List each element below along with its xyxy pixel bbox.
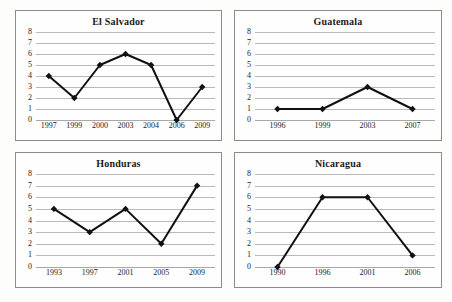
y-tick-label: 1 bbox=[28, 251, 32, 259]
x-tick-label: 1996 bbox=[315, 269, 331, 277]
series-line bbox=[278, 87, 413, 109]
x-tick-label: 2001 bbox=[360, 269, 376, 277]
plot-area-nicaragua bbox=[255, 174, 435, 267]
data-point-marker bbox=[364, 84, 370, 90]
y-tick-label: 2 bbox=[28, 240, 32, 248]
y-axis-labels-el-salvador: 876543210 bbox=[16, 32, 34, 120]
y-tick-label: 7 bbox=[247, 39, 251, 47]
x-tick-label: 1999 bbox=[66, 122, 82, 130]
plot-area-guatemala bbox=[255, 32, 435, 120]
x-tick-label: 1990 bbox=[270, 269, 286, 277]
y-tick-label: 2 bbox=[28, 94, 32, 102]
plot-area-el-salvador bbox=[36, 32, 215, 120]
y-tick-label: 3 bbox=[247, 228, 251, 236]
y-tick-label: 6 bbox=[28, 50, 32, 58]
y-tick-label: 4 bbox=[28, 72, 32, 80]
x-tick-label: 1999 bbox=[315, 122, 331, 130]
chart-panel-nicaragua: Nicaragua 876543210 1990199620012006 bbox=[234, 152, 442, 288]
line-series-honduras bbox=[36, 174, 215, 267]
y-tick-label: 2 bbox=[247, 240, 251, 248]
x-tick-label: 2006 bbox=[405, 269, 421, 277]
line-series-guatemala bbox=[255, 32, 435, 120]
y-tick-label: 0 bbox=[28, 263, 32, 271]
y-tick-label: 6 bbox=[247, 50, 251, 58]
line-series-el-salvador bbox=[36, 32, 215, 120]
y-tick-label: 6 bbox=[28, 193, 32, 201]
y-tick-label: 7 bbox=[28, 182, 32, 190]
y-tick-label: 2 bbox=[247, 94, 251, 102]
x-tick-label: 2006 bbox=[169, 122, 185, 130]
y-tick-label: 1 bbox=[28, 105, 32, 113]
x-tick-label: 1997 bbox=[82, 269, 98, 277]
y-tick-label: 5 bbox=[28, 205, 32, 213]
x-tick-label: 2009 bbox=[189, 269, 205, 277]
x-tick-label: 2003 bbox=[118, 122, 134, 130]
chart-panel-guatemala: Guatemala 876543210 1996199920032007 bbox=[234, 10, 442, 141]
chart-title-nicaragua: Nicaragua bbox=[235, 158, 441, 169]
y-tick-label: 7 bbox=[28, 39, 32, 47]
x-axis-labels-guatemala: 1996199920032007 bbox=[255, 122, 435, 136]
y-tick-label: 5 bbox=[247, 205, 251, 213]
y-tick-label: 0 bbox=[247, 263, 251, 271]
y-tick-label: 4 bbox=[247, 72, 251, 80]
data-point-marker bbox=[148, 62, 154, 68]
data-point-marker bbox=[319, 106, 325, 112]
series-line bbox=[278, 197, 413, 267]
y-tick-label: 3 bbox=[28, 228, 32, 236]
chart-panel-el-salvador: El Salvador 876543210 199719992000200320… bbox=[15, 10, 222, 141]
y-tick-label: 7 bbox=[247, 182, 251, 190]
x-axis-labels-el-salvador: 1997199920002003200420062009 bbox=[36, 122, 215, 136]
x-tick-label: 1997 bbox=[41, 122, 57, 130]
series-line bbox=[54, 186, 197, 244]
y-tick-label: 6 bbox=[247, 193, 251, 201]
y-axis-labels-honduras: 876543210 bbox=[16, 174, 34, 267]
y-tick-label: 0 bbox=[28, 116, 32, 124]
plot-area-honduras bbox=[36, 174, 215, 267]
x-tick-label: 1996 bbox=[270, 122, 286, 130]
y-tick-label: 3 bbox=[28, 83, 32, 91]
data-point-marker bbox=[409, 106, 415, 112]
chart-panel-honduras: Honduras 876543210 19931997200120052009 bbox=[15, 152, 222, 288]
y-tick-label: 8 bbox=[28, 170, 32, 178]
y-axis-labels-nicaragua: 876543210 bbox=[235, 174, 253, 267]
x-axis-labels-honduras: 19931997200120052009 bbox=[36, 269, 215, 283]
chart-title-el-salvador: El Salvador bbox=[16, 16, 221, 27]
y-tick-label: 8 bbox=[247, 28, 251, 36]
x-tick-label: 2003 bbox=[360, 122, 376, 130]
x-tick-label: 2005 bbox=[153, 269, 169, 277]
y-tick-label: 1 bbox=[247, 105, 251, 113]
y-tick-label: 8 bbox=[28, 28, 32, 36]
data-point-marker bbox=[274, 106, 280, 112]
y-axis-labels-guatemala: 876543210 bbox=[235, 32, 253, 120]
y-tick-label: 0 bbox=[247, 116, 251, 124]
chart-grid: El Salvador 876543210 199719992000200320… bbox=[0, 0, 452, 302]
x-tick-label: 2001 bbox=[118, 269, 134, 277]
y-tick-label: 8 bbox=[247, 170, 251, 178]
chart-title-honduras: Honduras bbox=[16, 158, 221, 169]
chart-title-guatemala: Guatemala bbox=[235, 16, 441, 27]
line-series-nicaragua bbox=[255, 174, 435, 267]
y-tick-label: 1 bbox=[247, 251, 251, 259]
y-tick-label: 5 bbox=[28, 61, 32, 69]
y-tick-label: 4 bbox=[247, 217, 251, 225]
x-tick-label: 2004 bbox=[143, 122, 159, 130]
x-tick-label: 2007 bbox=[405, 122, 421, 130]
x-tick-label: 1993 bbox=[46, 269, 62, 277]
y-tick-label: 5 bbox=[247, 61, 251, 69]
y-tick-label: 3 bbox=[247, 83, 251, 91]
data-point-marker bbox=[122, 51, 128, 57]
x-axis-labels-nicaragua: 1990199620012006 bbox=[255, 269, 435, 283]
x-tick-label: 2000 bbox=[92, 122, 108, 130]
y-tick-label: 4 bbox=[28, 217, 32, 225]
series-line bbox=[49, 54, 202, 120]
x-tick-label: 2009 bbox=[194, 122, 210, 130]
